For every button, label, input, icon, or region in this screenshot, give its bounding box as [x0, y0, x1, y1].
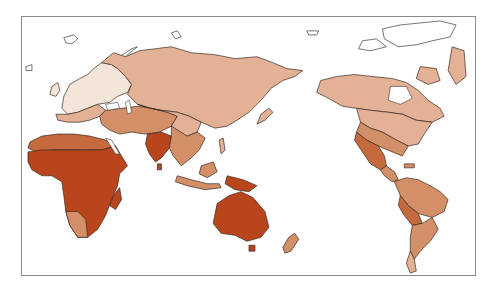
map-frame [21, 16, 476, 276]
region-indonesia [175, 176, 221, 190]
world-map [22, 17, 475, 275]
region-sri-lanka [157, 164, 161, 170]
region-caribbean [404, 164, 414, 168]
region-greenland-coast [448, 47, 466, 85]
region-britain [50, 82, 60, 96]
region-central-america [380, 166, 398, 182]
region-tasmania [249, 245, 255, 251]
region-new-zealand [283, 233, 299, 253]
region-australia [213, 192, 269, 242]
region-north-africa [28, 134, 116, 152]
region-philippines [219, 138, 225, 154]
region-borneo [199, 162, 217, 178]
region-new-guinea [225, 176, 257, 192]
region-japan [257, 108, 273, 124]
region-iceland [26, 65, 32, 71]
region-arctic-island [171, 31, 181, 39]
region-svalbard [64, 35, 78, 44]
region-baffin [416, 67, 440, 85]
region-arctic-archipelago [359, 39, 387, 51]
region-greenland [382, 21, 456, 47]
region-india [145, 132, 171, 162]
region-chukotka-island [307, 31, 319, 35]
